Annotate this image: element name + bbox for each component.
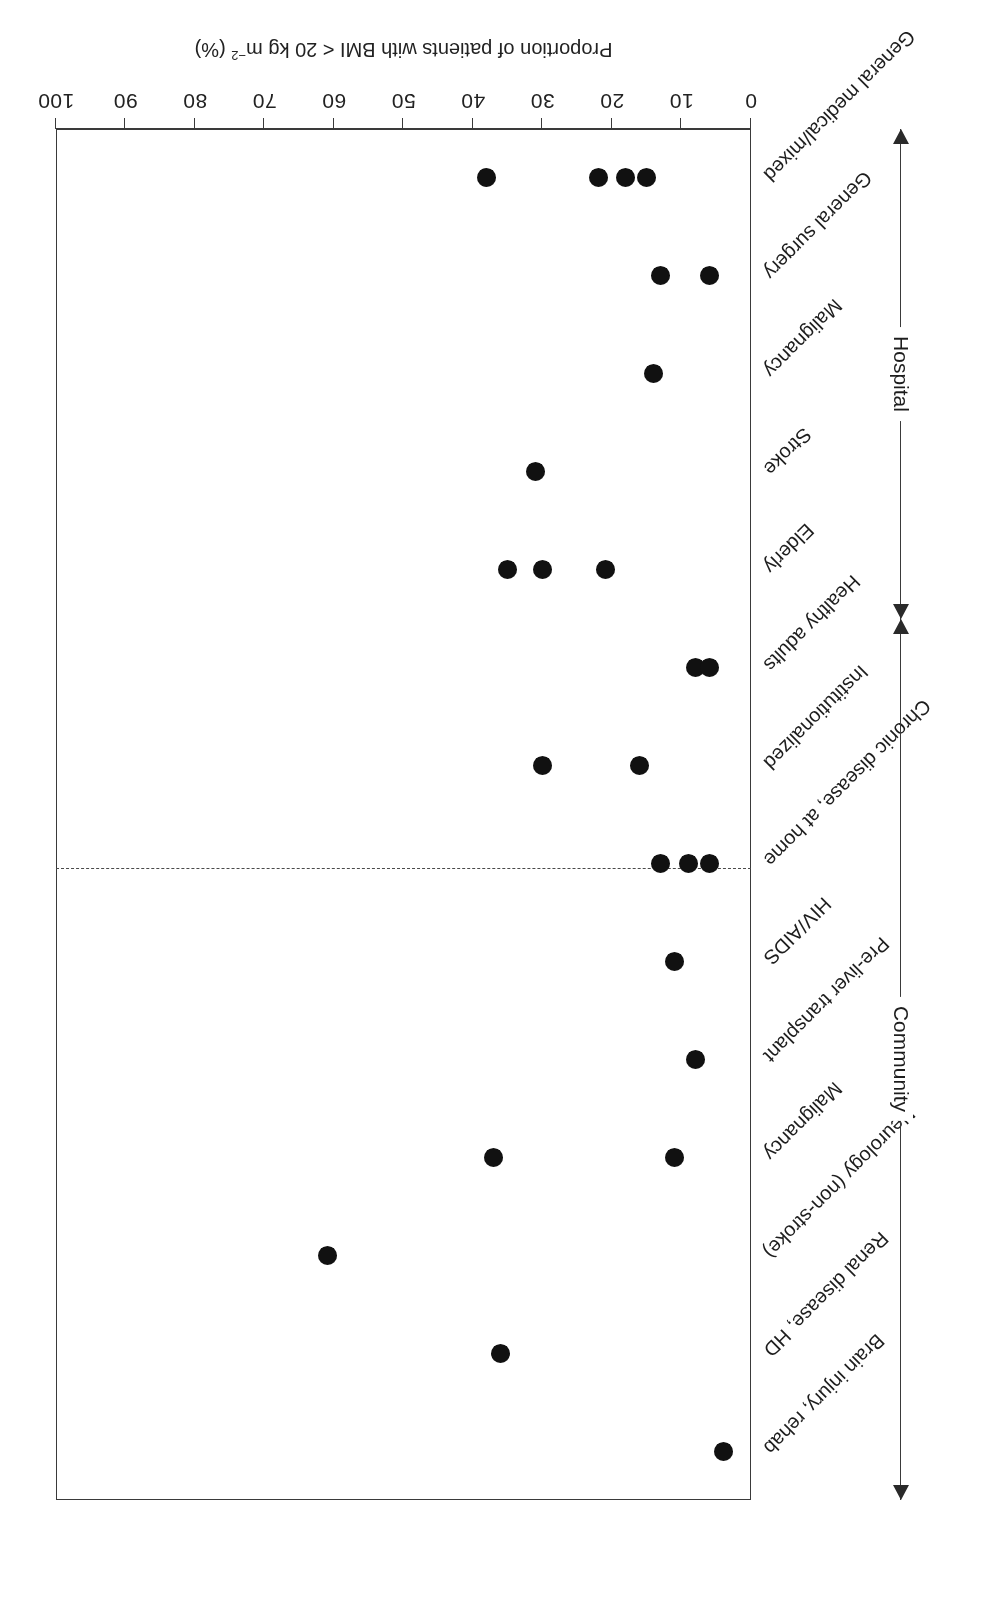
figure-stage: 0102030405060708090100 General medical/m… <box>0 0 993 1611</box>
hospital-community-divider <box>56 868 751 869</box>
axis-title-units: (%) <box>195 39 232 61</box>
category-label: Malignancy <box>759 294 847 382</box>
category-label: Elderly <box>759 518 818 577</box>
community-bracket-arrow <box>893 1485 909 1500</box>
data-point <box>596 560 615 579</box>
axis-tick-label: 90 <box>96 89 156 113</box>
data-point <box>651 854 670 873</box>
value-axis-line <box>56 128 751 129</box>
axis-tick-label: 20 <box>582 89 642 113</box>
data-point <box>318 1246 337 1265</box>
data-point <box>679 854 698 873</box>
axis-tick-label: 80 <box>165 89 225 113</box>
community-bracket-label: Community <box>889 997 913 1121</box>
axis-title-main: Proportion of patients with BMI < 20 kg … <box>246 39 612 61</box>
category-label: Stroke <box>759 423 816 480</box>
data-point <box>714 1442 733 1461</box>
category-label: Chronic disease, at home <box>759 695 936 872</box>
axis-tick-label: 10 <box>652 89 712 113</box>
data-point <box>491 1344 510 1363</box>
category-label: General medical/mixed <box>759 25 920 186</box>
data-point <box>533 756 552 775</box>
hospital-bracket-label: Hospital <box>889 327 913 421</box>
hospital-bracket-arrow <box>893 129 909 144</box>
axis-title-exponent: −2 <box>231 48 246 63</box>
axis-tick-label: 100 <box>26 89 86 113</box>
community-bracket-arrow <box>893 619 909 634</box>
axis-tick-label: 70 <box>235 89 295 113</box>
data-point <box>589 168 608 187</box>
axis-tick-label: 50 <box>374 89 434 113</box>
plot-area <box>56 129 751 1500</box>
hospital-bracket-arrow <box>893 604 909 619</box>
axis-tick-label: 60 <box>304 89 364 113</box>
category-label: HIV/AIDS <box>759 893 836 970</box>
axis-tick-label: 0 <box>721 89 781 113</box>
axis-tick-label: 30 <box>513 89 573 113</box>
data-point <box>700 854 719 873</box>
data-point <box>686 1050 705 1069</box>
data-point <box>484 1148 503 1167</box>
category-label: Healthy adults <box>759 570 865 676</box>
data-point <box>665 1148 684 1167</box>
data-point <box>700 658 719 677</box>
category-label: Malignancy <box>759 1078 847 1166</box>
data-point <box>665 952 684 971</box>
axis-title: Proportion of patients with BMI < 20 kg … <box>56 38 751 63</box>
axis-tick-label: 40 <box>443 89 503 113</box>
